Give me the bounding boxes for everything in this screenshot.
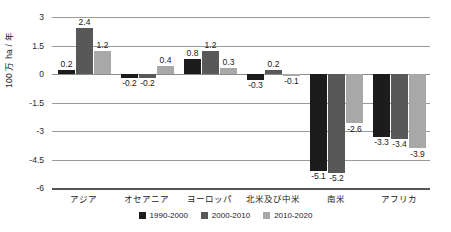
y-tick-label: -6 bbox=[14, 183, 44, 193]
bar[interactable] bbox=[247, 74, 264, 80]
bar[interactable] bbox=[157, 66, 174, 74]
bar-group: 0.81.20.3 bbox=[178, 17, 241, 188]
bar-group: -0.30.2-0.1 bbox=[241, 17, 304, 188]
y-axis-title: 100 万 ha / 年 bbox=[2, 13, 18, 107]
bar[interactable] bbox=[391, 74, 408, 139]
bar-value-label: -0.3 bbox=[239, 80, 273, 90]
legend-swatch-icon bbox=[201, 212, 208, 219]
bar[interactable] bbox=[265, 70, 282, 74]
category-label: アジア bbox=[52, 192, 115, 204]
legend-label: 2010-2020 bbox=[274, 211, 312, 220]
bar[interactable] bbox=[94, 51, 111, 74]
bar-value-label: 1.2 bbox=[194, 40, 228, 50]
y-tick-label: -4.5 bbox=[14, 155, 44, 165]
bar[interactable] bbox=[76, 28, 93, 74]
legend-swatch-icon bbox=[263, 212, 270, 219]
legend-item[interactable]: 2010-2020 bbox=[263, 211, 312, 220]
bar[interactable] bbox=[310, 74, 327, 171]
category-label: オセアニア bbox=[115, 192, 178, 204]
gridline-neg6 bbox=[52, 188, 430, 190]
chart-legend: 1990-20002000-20102010-2020 bbox=[0, 211, 451, 220]
bar[interactable] bbox=[346, 74, 363, 123]
bar[interactable] bbox=[220, 68, 237, 74]
deforestation-bar-chart: 100 万 ha / 年 0.22.41.2-0.2-0.20.40.81.20… bbox=[0, 0, 451, 232]
category-label: 北米及び中米 bbox=[241, 192, 304, 204]
bar-value-label: 2.4 bbox=[68, 17, 102, 27]
bar-group: -0.2-0.20.4 bbox=[115, 17, 178, 188]
legend-label: 1990-2000 bbox=[150, 211, 188, 220]
bar[interactable] bbox=[409, 74, 426, 148]
legend-item[interactable]: 2000-2010 bbox=[201, 211, 250, 220]
bar-value-label: -5.2 bbox=[320, 173, 354, 183]
bar[interactable] bbox=[139, 74, 156, 78]
bar-group: -5.1-5.2-2.6 bbox=[304, 17, 367, 188]
bar[interactable] bbox=[58, 70, 75, 74]
y-tick-label: 3 bbox=[14, 12, 44, 22]
bar-value-label: -3.9 bbox=[401, 149, 435, 159]
y-tick-label: 1.5 bbox=[14, 41, 44, 51]
bar[interactable] bbox=[184, 59, 201, 74]
bar-group: 0.22.41.2 bbox=[52, 17, 115, 188]
y-tick-label: -3 bbox=[14, 126, 44, 136]
bar-group: -3.3-3.4-3.9 bbox=[367, 17, 430, 188]
legend-item[interactable]: 1990-2000 bbox=[139, 211, 188, 220]
legend-label: 2000-2010 bbox=[212, 211, 250, 220]
y-tick-label: 0 bbox=[14, 69, 44, 79]
bar-value-label: 0.2 bbox=[257, 59, 291, 69]
y-tick-label: -1.5 bbox=[14, 98, 44, 108]
plot-area: 0.22.41.2-0.2-0.20.40.81.20.3-0.30.2-0.1… bbox=[52, 17, 430, 188]
legend-swatch-icon bbox=[139, 212, 146, 219]
category-label: ヨーロッパ bbox=[178, 192, 241, 204]
bar-value-label: -0.2 bbox=[131, 78, 165, 88]
category-label: アフリカ bbox=[367, 192, 430, 204]
bar[interactable] bbox=[121, 74, 138, 78]
bar[interactable] bbox=[373, 74, 390, 137]
category-label: 南米 bbox=[304, 192, 367, 204]
